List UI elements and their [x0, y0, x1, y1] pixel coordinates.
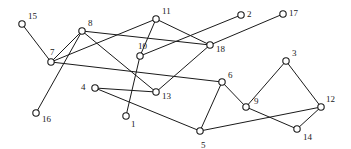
graph-node-18[interactable]: [207, 42, 213, 48]
graph-node-10[interactable]: [137, 53, 143, 59]
edge-layer: [22, 14, 321, 131]
graph-node-label-7: 7: [50, 48, 55, 57]
graph-node-label-8: 8: [88, 19, 93, 28]
graph-node-6[interactable]: [219, 79, 225, 85]
graph-node-label-3: 3: [292, 49, 297, 58]
graph-edge: [36, 31, 82, 113]
graph-node-11[interactable]: [153, 16, 159, 22]
graph-node-15[interactable]: [19, 21, 25, 27]
graph-node-label-18: 18: [216, 45, 225, 54]
graph-node-9[interactable]: [243, 104, 249, 110]
graph-node-label-17: 17: [289, 9, 298, 18]
graph-edge: [222, 82, 246, 107]
graph-node-label-2: 2: [247, 10, 252, 19]
graph-edge: [297, 107, 321, 129]
graph-node-14[interactable]: [294, 126, 300, 132]
graph-edge: [51, 31, 82, 62]
graph-node-label-4: 4: [81, 83, 86, 92]
graph-edge: [246, 107, 297, 129]
graph-node-label-14: 14: [303, 133, 312, 142]
graph-node-label-5: 5: [201, 141, 206, 149]
graph-node-7[interactable]: [48, 59, 54, 65]
graph-node-5[interactable]: [197, 128, 203, 134]
graph-node-label-13: 13: [162, 92, 171, 101]
graph-node-13[interactable]: [153, 89, 159, 95]
graph-edge: [246, 61, 286, 107]
graph-node-4[interactable]: [92, 85, 98, 91]
graph-canvas: [0, 0, 351, 149]
graph-node-1[interactable]: [123, 113, 129, 119]
graph-node-8[interactable]: [79, 28, 85, 34]
graph-node-2[interactable]: [238, 12, 244, 18]
graph-node-label-12: 12: [326, 95, 335, 104]
graph-node-12[interactable]: [318, 104, 324, 110]
graph-edge: [22, 24, 51, 62]
graph-edge: [95, 88, 200, 131]
graph-node-label-15: 15: [28, 12, 37, 21]
graph-node-3[interactable]: [283, 58, 289, 64]
graph-node-label-6: 6: [228, 71, 233, 80]
graph-edge: [156, 45, 210, 92]
graph-edge: [126, 56, 140, 116]
graph-node-16[interactable]: [33, 110, 39, 116]
graph-edge: [200, 107, 321, 131]
graph-node-label-10: 10: [138, 42, 147, 51]
graph-node-label-9: 9: [254, 97, 259, 106]
graph-node-label-16: 16: [42, 115, 51, 124]
graph-node-label-11: 11: [162, 7, 171, 16]
graph-edge: [286, 61, 321, 107]
graph-edge: [200, 82, 222, 131]
graph-node-17[interactable]: [280, 11, 286, 17]
graph-edge: [156, 19, 210, 45]
graph-figure: 158112177101836413912161145: [0, 0, 351, 149]
graph-node-label-1: 1: [131, 120, 136, 129]
